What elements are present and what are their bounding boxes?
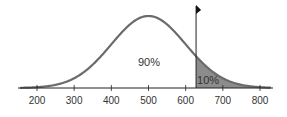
region-label-90: 90%: [138, 56, 160, 68]
x-tick-label: 600: [177, 95, 194, 106]
x-tick-label: 700: [214, 95, 231, 106]
x-tick-label: 300: [66, 95, 83, 106]
x-tick-label: 400: [103, 95, 120, 106]
x-tick-label: 800: [252, 95, 269, 106]
region-label-10: 10%: [197, 74, 219, 86]
flag-icon: [196, 5, 201, 14]
x-tick-label: 500: [140, 95, 157, 106]
normal-distribution-chart: 200300400500600700800 90% 10%: [0, 0, 287, 117]
bell-curve: [20, 16, 271, 88]
x-tick-label: 200: [29, 95, 46, 106]
